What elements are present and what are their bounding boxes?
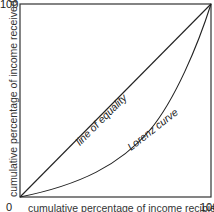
lorenz-annotation: Lorenz curve [125, 106, 180, 153]
y-axis-label: cumulative percentage of income received [7, 7, 19, 197]
lorenz-chart: line of equality Lorenz curve [0, 0, 214, 212]
x-axis-label: cumulative percentage of income recipien… [28, 202, 214, 212]
equality-annotation: line of equality [73, 91, 129, 147]
x-tick-0: 0 [6, 201, 12, 212]
x-tick-100: 100 [200, 201, 214, 212]
